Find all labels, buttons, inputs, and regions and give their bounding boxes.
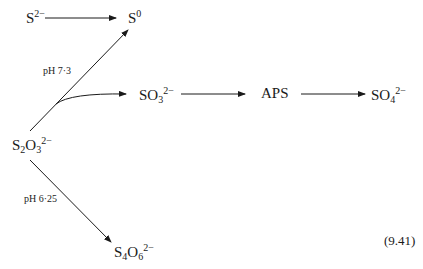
reaction-arrows <box>0 0 423 269</box>
thiosulfate-o: O <box>25 137 36 153</box>
node-thiosulfate: S2O32− <box>12 136 52 155</box>
sulfide-charge: 2− <box>34 8 45 19</box>
thiosulfate-charge: 2− <box>41 135 52 146</box>
label-ph-upper: pH 7·3 <box>43 66 71 76</box>
tetrathionate-o: O <box>127 244 138 260</box>
node-aps: APS <box>261 86 289 101</box>
node-tetrathionate: S4O62− <box>114 243 154 262</box>
node-sulfite: SO32− <box>139 86 174 105</box>
label-ph-lower: pH 6·25 <box>24 194 57 204</box>
sulfate-base: SO <box>371 87 390 103</box>
node-sulfate: SO42− <box>371 86 406 105</box>
sulfite-base: SO <box>139 87 158 103</box>
aps-label: APS <box>261 85 289 101</box>
sulfite-charge: 2− <box>163 85 174 96</box>
arrow-thiosulfate-to-sulfur <box>30 30 128 131</box>
tetrathionate-charge: 2− <box>143 242 154 253</box>
sulfate-charge: 2− <box>395 85 406 96</box>
node-sulfur: S0 <box>128 9 141 26</box>
node-sulfide: S2− <box>26 9 45 26</box>
equation-number: (9.41) <box>384 234 415 247</box>
sulfur-charge: 0 <box>136 8 141 19</box>
arrow-thiosulfate-to-sulfite <box>56 94 126 104</box>
